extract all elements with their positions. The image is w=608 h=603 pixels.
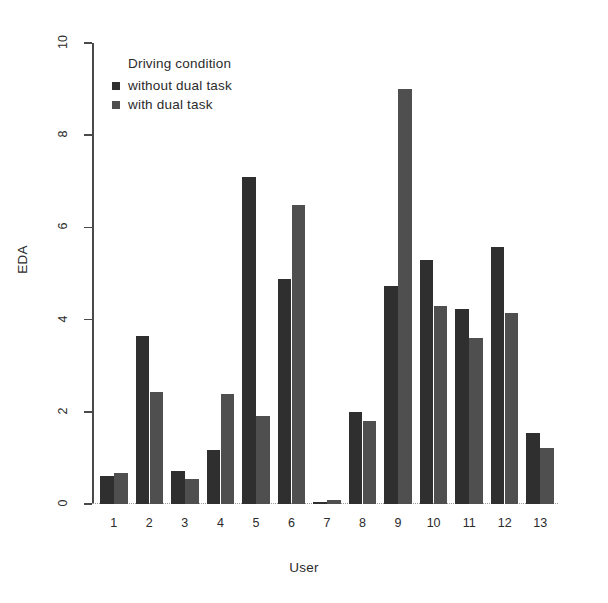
- bar-user-5-with-dual-task: [256, 416, 270, 504]
- bar-user-9-without-dual-task: [384, 286, 398, 504]
- legend-swatch-with-dual-task: [112, 101, 120, 109]
- bar-user-4-with-dual-task: [221, 394, 235, 504]
- bar-user-12-with-dual-task: [505, 313, 519, 504]
- x-axis-label: User: [0, 560, 608, 575]
- y-axis-tick: [84, 319, 92, 321]
- eda-bar-chart: EDA 0246810 12345678910111213 User Drivi…: [0, 0, 608, 603]
- bar-user-6-without-dual-task: [278, 279, 292, 504]
- y-axis-tick: [84, 411, 92, 413]
- bar-user-5-without-dual-task: [242, 177, 256, 504]
- legend-item-without-dual-task: without dual task: [112, 78, 342, 93]
- bar-user-3-without-dual-task: [171, 471, 185, 504]
- y-axis-tick-label: 0: [56, 488, 70, 518]
- y-axis-tick: [84, 134, 92, 136]
- x-axis-tick-label-12: 12: [485, 516, 525, 530]
- bar-user-4-without-dual-task: [207, 450, 221, 504]
- chart-legend: Driving condition without dual task with…: [112, 56, 342, 116]
- bar-user-1-with-dual-task: [114, 473, 128, 504]
- bar-user-1-without-dual-task: [100, 476, 114, 504]
- y-axis-tick-label: 10: [56, 27, 70, 57]
- x-axis-tick-label-10: 10: [414, 516, 454, 530]
- y-axis-tick: [84, 42, 92, 44]
- x-axis-tick-label-7: 7: [307, 516, 347, 530]
- bar-user-7-with-dual-task: [327, 500, 341, 504]
- legend-label-with-dual-task: with dual task: [128, 97, 213, 112]
- legend-swatch-without-dual-task: [112, 82, 120, 90]
- bar-user-13-without-dual-task: [526, 433, 540, 504]
- x-axis-tick-label-13: 13: [520, 516, 560, 530]
- bar-user-13-with-dual-task: [540, 448, 554, 504]
- y-axis-label: EDA: [15, 220, 30, 300]
- bar-user-10-without-dual-task: [420, 260, 434, 504]
- y-axis-tick-label: 6: [56, 211, 70, 241]
- x-axis-tick-label-1: 1: [94, 516, 134, 530]
- legend-item-with-dual-task: with dual task: [112, 97, 342, 112]
- y-axis-tick: [84, 227, 92, 229]
- bar-user-8-without-dual-task: [349, 412, 363, 504]
- bar-user-10-with-dual-task: [434, 306, 448, 504]
- x-axis-tick-label-5: 5: [236, 516, 276, 530]
- legend-title: Driving condition: [128, 56, 342, 71]
- bar-user-9-with-dual-task: [398, 89, 412, 504]
- bar-user-6-with-dual-task: [292, 205, 306, 504]
- legend-label-without-dual-task: without dual task: [128, 78, 232, 93]
- x-axis-tick-label-11: 11: [449, 516, 489, 530]
- y-axis-tick: [84, 503, 92, 505]
- y-axis-tick-label: 4: [56, 304, 70, 334]
- x-axis-tick-label-6: 6: [271, 516, 311, 530]
- y-axis-line: [92, 43, 94, 504]
- x-axis-tick-label-3: 3: [165, 516, 205, 530]
- x-axis-tick-label-9: 9: [378, 516, 418, 530]
- bar-user-12-without-dual-task: [491, 247, 505, 504]
- x-axis-tick-label-8: 8: [343, 516, 383, 530]
- y-axis-tick-label: 8: [56, 119, 70, 149]
- bar-user-11-without-dual-task: [455, 309, 469, 504]
- x-axis-tick-label-4: 4: [200, 516, 240, 530]
- y-axis-tick-label: 2: [56, 396, 70, 426]
- bar-user-11-with-dual-task: [469, 338, 483, 504]
- bar-user-3-with-dual-task: [185, 479, 199, 504]
- bar-user-7-without-dual-task: [313, 502, 327, 504]
- bar-user-8-with-dual-task: [363, 421, 377, 504]
- x-axis-tick-label-2: 2: [129, 516, 169, 530]
- bar-user-2-without-dual-task: [136, 336, 150, 504]
- bar-user-2-with-dual-task: [150, 392, 164, 504]
